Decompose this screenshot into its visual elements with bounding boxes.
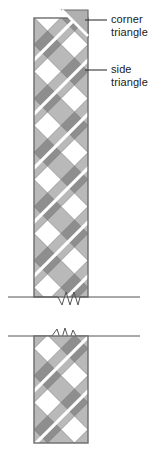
annotation-label-corner-triangle-line2: triangle	[111, 26, 148, 39]
annotation-label-corner-triangle-line1: corner	[111, 13, 148, 26]
annotation-label-side-triangle-line1: side	[111, 63, 148, 76]
strip-upper-segment	[28, 0, 94, 336]
annotation-label-corner-triangle: corner triangle	[111, 13, 148, 38]
strip-lower-segment	[28, 331, 94, 451]
annotation-label-side-triangle-line2: triangle	[111, 76, 148, 89]
annotation-label-side-triangle: side triangle	[111, 63, 148, 88]
